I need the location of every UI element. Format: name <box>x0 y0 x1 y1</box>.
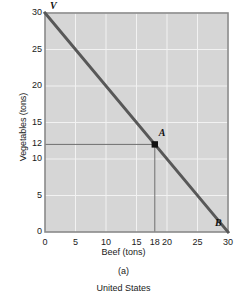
point-label-b: B <box>214 217 222 228</box>
panel-letter: (a) <box>0 266 247 276</box>
x-axis-title: Beef (tons) <box>0 247 247 257</box>
point-label-a: A <box>158 127 166 138</box>
plot-area: VAB <box>0 0 247 306</box>
panel-caption: United States <box>0 283 247 293</box>
chart-figure: Vegetables (tons) 05101215202530 0510151… <box>0 0 247 306</box>
data-point-a <box>152 141 158 147</box>
point-label-v: V <box>50 0 58 11</box>
